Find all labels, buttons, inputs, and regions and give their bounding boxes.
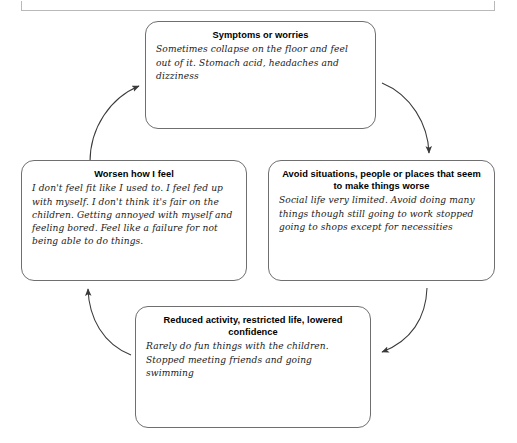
node-worsen-how-i-feel[interactable]: Worsen how I feel I don't feel fit like … (21, 160, 247, 281)
node-symptoms-or-worries[interactable]: Symptoms or worries Sometimes collapse o… (145, 21, 376, 129)
node-title: Avoid situations, people or places that … (279, 168, 484, 192)
node-title: Symptoms or worries (156, 29, 365, 41)
arrow-worsen-to-symptoms (90, 86, 139, 162)
node-body: Rarely do fun things with the children. … (146, 340, 360, 380)
arrow-avoid-to-reduced (382, 288, 427, 352)
node-avoid-situations[interactable]: Avoid situations, people or places that … (268, 160, 495, 281)
diagram-canvas: Symptoms or worries Sometimes collapse o… (0, 0, 517, 443)
arrow-reduced-to-worsen (88, 289, 131, 355)
node-body: Sometimes collapse on the floor and feel… (156, 43, 365, 83)
node-reduced-activity[interactable]: Reduced activity, restricted life, lower… (135, 306, 371, 428)
node-title: Reduced activity, restricted life, lower… (146, 314, 360, 338)
node-title: Worsen how I feel (32, 168, 236, 180)
arrow-symptoms-to-avoid (382, 83, 429, 153)
node-body: Social life very limited. Avoid doing ma… (279, 194, 484, 234)
node-body: I don't feel fit like I used to. I feel … (32, 182, 236, 248)
